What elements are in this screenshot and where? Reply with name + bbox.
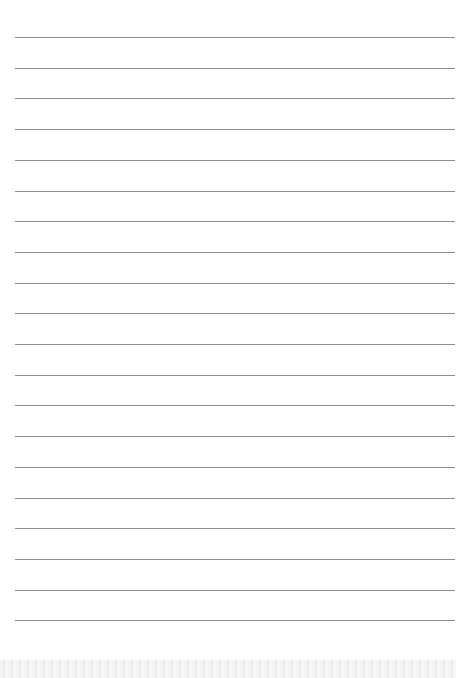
ruled-line: [15, 283, 455, 284]
ruled-line: [15, 160, 455, 161]
ruled-line: [15, 191, 455, 192]
ruled-line: [15, 37, 455, 38]
ruled-line: [15, 375, 455, 376]
ruled-line: [15, 590, 455, 591]
bottom-edge-strip: [0, 660, 456, 678]
ruled-line: [15, 129, 455, 130]
ruled-line: [15, 98, 455, 99]
ruled-line: [15, 559, 455, 560]
ruled-line: [15, 313, 455, 314]
ruled-line: [15, 620, 455, 621]
ruled-line: [15, 252, 455, 253]
lined-paper-sheet: [0, 0, 456, 660]
ruled-line: [15, 467, 455, 468]
ruled-line: [15, 221, 455, 222]
ruled-line: [15, 405, 455, 406]
ruled-line: [15, 344, 455, 345]
ruled-line: [15, 436, 455, 437]
ruled-line: [15, 498, 455, 499]
ruled-line: [15, 68, 455, 69]
ruled-line: [15, 528, 455, 529]
